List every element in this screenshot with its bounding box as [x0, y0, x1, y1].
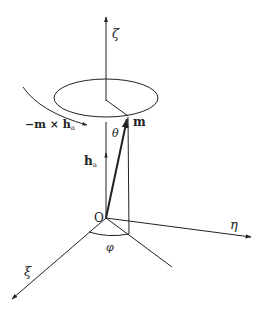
radius-segment: [106, 100, 128, 116]
phi-label: φ: [106, 241, 114, 254]
zeta-label: ζ: [112, 26, 120, 41]
torque-label: −m × ha: [25, 118, 75, 132]
origin-label: O: [94, 211, 104, 225]
projection-line: [128, 117, 129, 234]
theta-label: θ: [112, 127, 119, 140]
xi-axis: [12, 218, 106, 299]
xi-label: ξ: [24, 264, 32, 279]
eta-label: η: [230, 217, 238, 232]
phi-arc: [89, 232, 129, 236]
h-a-label: ha: [84, 154, 97, 169]
precession-diagram: ζ η ξ O m θ φ ha −m × ha: [0, 0, 262, 317]
m-label: m: [133, 115, 146, 129]
